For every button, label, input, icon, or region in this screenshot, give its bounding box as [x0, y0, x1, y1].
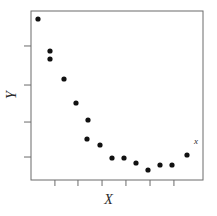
data-point [35, 16, 40, 21]
data-point [184, 152, 189, 157]
data-point [121, 155, 126, 160]
data-point [47, 56, 52, 61]
data-point [85, 117, 90, 122]
data-point [97, 142, 102, 147]
data-point [169, 162, 174, 167]
data-point [61, 76, 66, 81]
data-point [73, 100, 78, 105]
plot-annotation-marker: x [193, 136, 198, 146]
y-axis-title: Y [5, 85, 19, 105]
plot-annotations: x [193, 136, 198, 146]
plot-canvas: x [0, 0, 217, 216]
x-axis-title: X [0, 193, 217, 207]
data-point [145, 167, 150, 172]
data-point [133, 160, 138, 165]
axis-frame-rect [31, 11, 203, 180]
x-axis-ticks [55, 180, 174, 186]
data-points [35, 16, 189, 172]
data-point [157, 162, 162, 167]
data-point [47, 48, 52, 53]
data-point [84, 136, 89, 141]
y-axis-ticks [24, 46, 31, 157]
scatter-plot-figure: x Y X [0, 0, 217, 216]
data-point [109, 155, 114, 160]
plot-frame [31, 11, 203, 180]
